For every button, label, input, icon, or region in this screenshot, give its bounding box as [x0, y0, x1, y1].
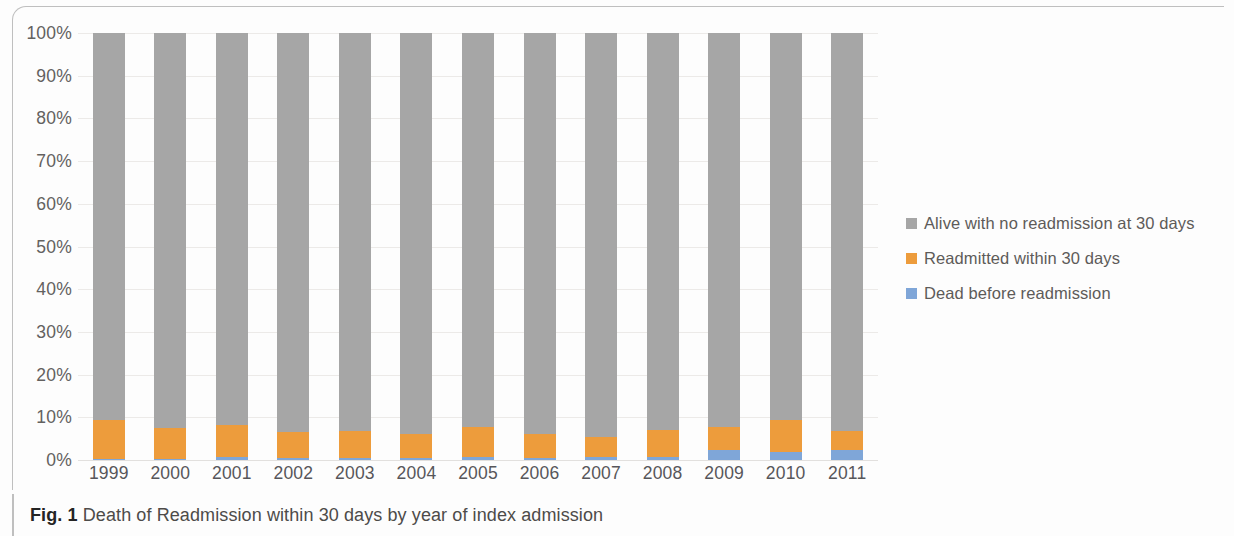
- chart-legend: Alive with no readmission at 30 daysRead…: [906, 206, 1226, 311]
- bar-segment: [708, 427, 740, 450]
- x-axis-tick-2011: 2011: [828, 463, 866, 484]
- y-axis-tick-10pct: 10%: [36, 407, 72, 428]
- legend-item-label: Dead before readmission: [924, 284, 1111, 303]
- bar-segment: [585, 33, 617, 437]
- bar-2010[interactable]: [770, 33, 802, 460]
- bar-series-container: [78, 33, 878, 460]
- legend-item[interactable]: Dead before readmission: [906, 276, 1226, 311]
- bar-segment: [462, 457, 494, 460]
- bar-segment: [339, 431, 371, 458]
- bar-segment: [524, 458, 556, 460]
- bar-2001[interactable]: [216, 33, 248, 460]
- bar-segment: [277, 33, 309, 432]
- bar-segment: [462, 33, 494, 427]
- square-swatch-gray-icon: [906, 218, 917, 229]
- y-axis-tick-30pct: 30%: [36, 321, 72, 342]
- bar-2002[interactable]: [277, 33, 309, 460]
- x-axis: 1999200020012002200320042005200620072008…: [78, 463, 878, 491]
- bar-segment: [277, 432, 309, 458]
- bar-segment: [524, 434, 556, 458]
- y-axis-tick-70pct: 70%: [36, 151, 72, 172]
- y-axis-tick-90pct: 90%: [36, 65, 72, 86]
- x-axis-tick-2003: 2003: [335, 463, 375, 484]
- bar-segment: [647, 430, 679, 457]
- gridline-0: [78, 460, 878, 461]
- x-axis-tick-2009: 2009: [704, 463, 744, 484]
- y-axis: 0%10%20%30%40%50%60%70%80%90%100%: [14, 33, 72, 460]
- square-swatch-blue-icon: [906, 288, 917, 299]
- x-axis-tick-2000: 2000: [150, 463, 190, 484]
- y-axis-tick-20pct: 20%: [36, 364, 72, 385]
- bar-segment: [93, 33, 125, 420]
- x-axis-tick-2005: 2005: [458, 463, 498, 484]
- y-axis-tick-60pct: 60%: [36, 193, 72, 214]
- x-axis-tick-2006: 2006: [520, 463, 560, 484]
- bar-segment: [154, 428, 186, 459]
- bar-segment: [400, 33, 432, 434]
- legend-item[interactable]: Readmitted within 30 days: [906, 241, 1226, 276]
- bar-segment: [277, 458, 309, 460]
- square-swatch-orange-icon: [906, 253, 917, 264]
- bar-2007[interactable]: [585, 33, 617, 460]
- y-axis-tick-50pct: 50%: [36, 236, 72, 257]
- legend-item[interactable]: Alive with no readmission at 30 days: [906, 206, 1226, 241]
- bar-segment: [831, 431, 863, 450]
- bar-segment: [647, 33, 679, 430]
- bar-segment: [216, 33, 248, 425]
- bar-segment: [400, 434, 432, 458]
- caption-rule: [12, 494, 14, 536]
- bar-segment: [585, 437, 617, 457]
- bar-segment: [93, 420, 125, 458]
- bar-segment: [400, 458, 432, 460]
- legend-item-label: Readmitted within 30 days: [924, 249, 1120, 268]
- figure-page: 0%10%20%30%40%50%60%70%80%90%100% 199920…: [0, 0, 1234, 536]
- legend-item-label: Alive with no readmission at 30 days: [924, 214, 1194, 233]
- x-axis-tick-2001: 2001: [212, 463, 252, 484]
- bar-2004[interactable]: [400, 33, 432, 460]
- y-axis-tick-0pct: 0%: [46, 450, 72, 471]
- bar-2003[interactable]: [339, 33, 371, 460]
- bar-segment: [462, 427, 494, 458]
- bar-2000[interactable]: [154, 33, 186, 460]
- bar-segment: [770, 33, 802, 420]
- bar-segment: [770, 452, 802, 460]
- bar-segment: [585, 457, 617, 460]
- bar-2008[interactable]: [647, 33, 679, 460]
- x-axis-tick-2004: 2004: [397, 463, 437, 484]
- x-axis-tick-2010: 2010: [766, 463, 806, 484]
- figure-caption: Fig. 1 Death of Readmission within 30 da…: [30, 505, 603, 526]
- x-axis-tick-1999: 1999: [89, 463, 129, 484]
- bar-2006[interactable]: [524, 33, 556, 460]
- bar-2011[interactable]: [831, 33, 863, 460]
- bar-segment: [524, 33, 556, 434]
- bar-segment: [708, 33, 740, 427]
- bar-segment: [339, 33, 371, 431]
- bar-segment: [339, 458, 371, 460]
- bar-segment: [647, 457, 679, 460]
- bar-segment: [216, 457, 248, 460]
- bar-segment: [154, 459, 186, 460]
- bar-2005[interactable]: [462, 33, 494, 460]
- bar-segment: [93, 459, 125, 460]
- bar-2009[interactable]: [708, 33, 740, 460]
- y-axis-tick-40pct: 40%: [36, 279, 72, 300]
- x-axis-tick-2007: 2007: [581, 463, 621, 484]
- bar-segment: [770, 420, 802, 452]
- bar-segment: [831, 33, 863, 431]
- bar-segment: [216, 425, 248, 457]
- bar-segment: [831, 450, 863, 460]
- bar-segment: [708, 450, 740, 460]
- y-axis-tick-100pct: 100%: [26, 23, 72, 44]
- caption-prefix: Fig. 1: [30, 505, 78, 525]
- bar-segment: [154, 33, 186, 428]
- caption-text: Death of Readmission within 30 days by y…: [83, 505, 603, 525]
- x-axis-tick-2008: 2008: [643, 463, 683, 484]
- x-axis-tick-2002: 2002: [274, 463, 314, 484]
- y-axis-tick-80pct: 80%: [36, 108, 72, 129]
- bar-1999[interactable]: [93, 33, 125, 460]
